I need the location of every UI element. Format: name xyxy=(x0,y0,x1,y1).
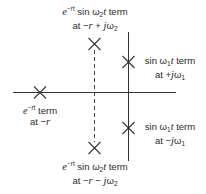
text: + xyxy=(93,20,104,31)
text: at − xyxy=(155,135,171,146)
label-sine-upper: sin ω1t term at +jω1 xyxy=(137,55,203,83)
text: 1 xyxy=(181,74,185,81)
text: − xyxy=(93,175,104,186)
text: at + xyxy=(155,69,171,80)
x-mark-icon xyxy=(89,142,101,154)
text: term xyxy=(35,105,57,116)
text: at − xyxy=(30,116,46,127)
label-damped-upper: e−rt sin ω2t term at −r + jω2 xyxy=(52,3,138,34)
text: r xyxy=(46,116,50,127)
text: sin ω xyxy=(75,161,100,172)
text: term xyxy=(174,121,196,132)
label-exp: e−rt term at −r xyxy=(14,102,66,127)
text: sin ω xyxy=(75,6,100,17)
text: ω xyxy=(106,175,113,186)
text: term xyxy=(174,55,196,66)
text: at − xyxy=(72,175,88,186)
label-sine-lower: sin ω1t term at −jω1 xyxy=(137,121,203,149)
text: term xyxy=(106,6,128,17)
text: at − xyxy=(72,20,88,31)
text: sin ω xyxy=(145,121,167,132)
text: −rt xyxy=(67,5,75,12)
x-mark-icon xyxy=(89,38,101,50)
label-damped-lower: e−rt sin ω2t term at −r − jω2 xyxy=(52,158,138,189)
text: sin ω xyxy=(145,55,167,66)
text: 1 xyxy=(181,140,185,147)
text: 2 xyxy=(114,25,118,32)
text: 2 xyxy=(114,180,118,187)
text: −rt xyxy=(67,160,75,167)
text: term xyxy=(106,161,128,172)
text: ω xyxy=(106,20,113,31)
